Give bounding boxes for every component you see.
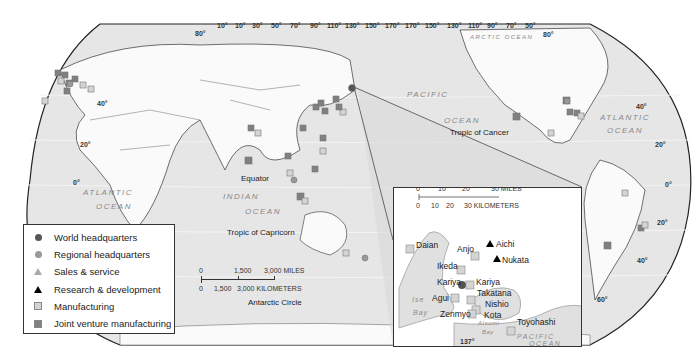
legend-item-joint-venture: Joint venture manufacturing [30,315,174,332]
atlantic-right-label: ATLANTIC [600,113,650,122]
legend: World headquarters Regional headquarters… [23,224,175,334]
place-daian: Daian [416,240,438,250]
lat-label: 40° [637,257,648,264]
lon-label: 70° [506,22,517,29]
world-hq-circle-icon [35,234,42,241]
atsumi-label: Atsumi [478,320,499,326]
place-kariya-2: Kariya [476,277,500,287]
lon-label: 170° [405,22,419,29]
place-agui: Agui [432,293,449,303]
lon-label: 50° [525,22,536,29]
place-kota: Kota [484,310,502,320]
scale-km-1: 1,500 [214,285,232,292]
place-toyohashi: Toyohashi [517,317,555,327]
ise-label: Ise [412,296,424,303]
atlantic-right-ocean-label: OCEAN [607,126,643,135]
atsumi-bay-label: Bay [482,329,494,335]
inset-longitude-label: 137° [460,338,474,345]
inset-scale-mi-2: 20 [462,187,470,192]
scale-mi-0: 0 [199,267,203,274]
indian-label: INDIAN [223,192,259,201]
lon-label: 10° [235,22,246,29]
inset-scale-km-1: 10 [431,202,439,209]
indian-ocean-label: OCEAN [245,207,281,216]
equator-label: Equator [241,174,269,183]
inset-scale-mi-3: 30 MILES [491,187,522,192]
legend-label: Joint venture manufacturing [54,318,171,329]
joint-venture-square-icon [34,320,42,328]
place-kariya-1: Kariya [437,277,461,287]
lon-label: 130° [345,22,359,29]
arctic-ocean-label: ARCTIC OCEAN [470,34,533,40]
legend-label: Research & development [54,284,161,295]
inset-scale-mi-0: 0 [416,187,420,192]
lat-label: 80° [543,31,554,38]
lon-label: 110° [327,22,341,29]
legend-label: Regional headquarters [54,249,150,260]
inset-ocean-label: OCEAN [529,340,561,347]
inset-scale-km-3: 30 KILOMETERS [464,202,519,209]
lon-label: 90° [487,22,498,29]
ise-bay-label: Bay [413,309,428,316]
tropic-of-capricorn-label: Tropic of Capricorn [227,228,295,237]
antarctic-circle-label: Antarctic Circle [248,298,302,307]
scale-km-0: 0 [199,285,203,292]
scale-km-2: 3,000 KILOMETERS [237,285,302,292]
lon-label: 90° [310,22,321,29]
legend-label: World headquarters [54,232,137,243]
place-anjo: Anjo [457,244,474,254]
lat-label: 20° [655,141,666,148]
lon-label: 30° [252,22,263,29]
lat-label: 0° [665,181,672,188]
lon-label: 150° [365,22,379,29]
sales-triangle-icon [34,268,42,275]
manufacturing-square-icon [34,302,42,310]
pacific-label: PACIFIC [407,90,448,99]
inset-scale-km-2: 20 [446,202,454,209]
atlantic-left-ocean-label: OCEAN [96,202,132,211]
inset-scale-km-0: 0 [416,202,420,209]
legend-item-research: Research & development [30,281,174,298]
lon-label: 170° [385,22,399,29]
legend-item-sales-service: Sales & service [30,263,174,280]
regional-hq-circle-icon [35,251,42,258]
legend-item-manufacturing: Manufacturing [30,298,174,315]
lat-label: 0° [73,179,80,186]
lat-label: 40° [636,103,647,110]
place-takatana: Takatana [477,288,512,298]
lon-label: 50° [271,22,282,29]
lat-label: 20° [657,219,668,226]
scale-mi-2: 3,000 MILES [264,267,304,274]
legend-label: Sales & service [54,266,119,277]
place-nishio: Nishio [485,299,509,309]
tropic-of-cancer-label: Tropic of Cancer [450,128,509,137]
lon-label: 130° [447,22,461,29]
inset-map: 0 10 20 30 MILES 0 10 20 30 KILOMETERS D… [393,187,582,347]
place-aichi: Aichi [496,239,514,249]
research-triangle-icon [34,286,42,293]
inset-pacific-label: PACIFIC [517,333,555,340]
lon-label: 150° [425,22,439,29]
inset-scale-mi-1: 10 [438,187,446,192]
world-map: 10° 10° 30° 50° 70° 90° 110° 130° 150° 1… [0,0,700,362]
scale-mi-1: 1,500 [234,267,252,274]
place-zenmyo: Zenmyo [440,309,471,319]
place-ikeda: Ikeda [437,261,458,271]
lon-label: 10° [217,22,228,29]
lat-label: 40° [97,100,108,107]
place-nukata: Nukata [502,255,529,265]
lat-label: 20° [80,141,91,148]
legend-item-world-hq: World headquarters [30,229,174,246]
pacific-ocean-label: OCEAN [444,116,480,125]
lat-label: 80° [195,30,206,37]
lon-label: 70° [290,22,301,29]
lon-label: 110° [468,22,482,29]
legend-label: Manufacturing [54,301,114,312]
legend-item-regional-hq: Regional headquarters [30,246,174,263]
atlantic-left-label: ATLANTIC [83,188,133,197]
lat-label: 60° [597,296,608,303]
